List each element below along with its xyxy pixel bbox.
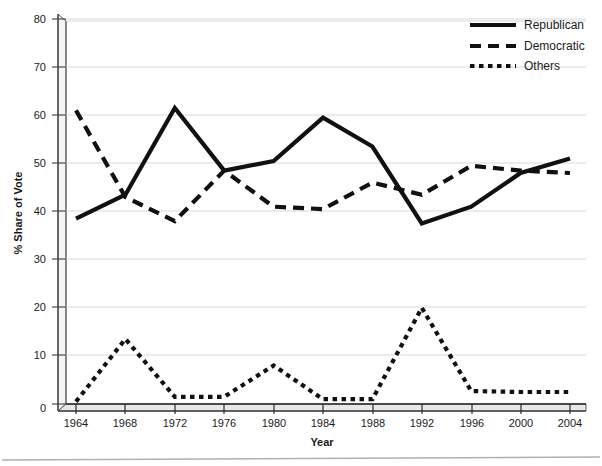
y-tick-label: 60: [34, 109, 46, 121]
y-tick-label: 40: [34, 205, 46, 217]
legend-label-democratic: Democratic: [524, 39, 585, 53]
x-tick-label: 1996: [460, 417, 484, 429]
x-tick-label: 2000: [509, 417, 533, 429]
y-tick-label: 30: [34, 253, 46, 265]
chart-background: [0, 0, 602, 466]
x-tick-label: 1980: [262, 417, 286, 429]
y-tick-label: 20: [34, 301, 46, 313]
y-axis-title: % Share of Vote: [12, 172, 24, 255]
x-axis-title: Year: [310, 436, 334, 448]
y-tick-label: 10: [34, 349, 46, 361]
x-tick-label: 1972: [163, 417, 187, 429]
x-tick-label: 1988: [361, 417, 385, 429]
x-tick-label: 1984: [311, 417, 335, 429]
vote-share-line-chart: 80 70 60 50 40 30 20 10 0 % Share of Vot…: [0, 0, 602, 466]
x-tick-label: 1976: [212, 417, 236, 429]
x-tick-label: 2004: [558, 417, 582, 429]
x-tick-label: 1968: [113, 417, 137, 429]
y-tick-label: 50: [34, 157, 46, 169]
x-tick-label: 1964: [64, 417, 88, 429]
y-tick-label: 0: [40, 402, 46, 414]
legend-label-republican: Republican: [524, 18, 584, 32]
y-tick-label: 80: [34, 13, 46, 25]
legend-label-others: Others: [524, 59, 560, 73]
x-tick-label: 1992: [410, 417, 434, 429]
y-tick-label: 70: [34, 61, 46, 73]
chart-figure: 80 70 60 50 40 30 20 10 0 % Share of Vot…: [0, 0, 602, 466]
